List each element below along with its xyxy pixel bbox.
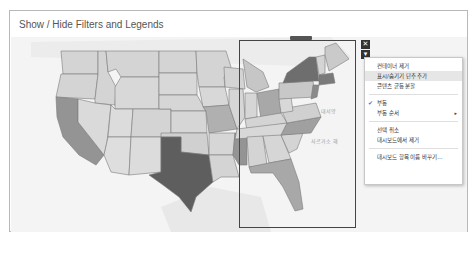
state-ks — [171, 111, 207, 133]
state-wy — [115, 77, 159, 109]
state-ar — [209, 133, 235, 155]
menu-item-floating-order[interactable]: 부동 순서 ▸ — [365, 108, 462, 118]
menu-item-deselect[interactable]: 선택 취소 — [365, 125, 462, 135]
state-or — [56, 74, 98, 99]
menu-separator — [369, 148, 458, 149]
submenu-arrow-icon: ▸ — [454, 108, 457, 118]
menu-item-add-show-hide-button[interactable]: 표시/숨기기 단추 추가 — [365, 71, 462, 81]
menu-item-rename-dashboard-item[interactable]: 대시보드 항목 이름 바꾸기... — [365, 152, 462, 162]
menu-item-distribute-evenly[interactable]: 콘텐츠 균등 분할 — [365, 81, 462, 91]
dashboard-title: Show / Hide Filters and Legends — [19, 19, 164, 30]
menu-separator — [369, 94, 458, 95]
context-menu: 컨테이너 제거 표시/숨기기 단추 추가 콘텐츠 균등 분할 ✔ 부동 부동 순… — [364, 57, 463, 185]
remove-container-button[interactable]: ✕ — [361, 40, 370, 49]
menu-item-remove-container[interactable]: 컨테이너 제거 — [365, 61, 462, 71]
menu-item-floating[interactable]: ✔ 부동 — [365, 98, 462, 108]
menu-separator — [369, 121, 458, 122]
state-ut — [108, 105, 133, 137]
move-handle[interactable] — [290, 36, 312, 40]
state-nm — [129, 137, 161, 175]
check-icon: ✔ — [368, 98, 373, 108]
close-icon: ✕ — [363, 40, 369, 48]
state-ia — [199, 87, 229, 107]
selected-container-outline[interactable] — [239, 40, 356, 228]
state-sd — [159, 73, 197, 95]
state-nd — [159, 51, 197, 73]
state-wa — [61, 51, 98, 74]
menu-item-remove-from-dashboard[interactable]: 대시보드에서 제거 — [365, 135, 462, 145]
